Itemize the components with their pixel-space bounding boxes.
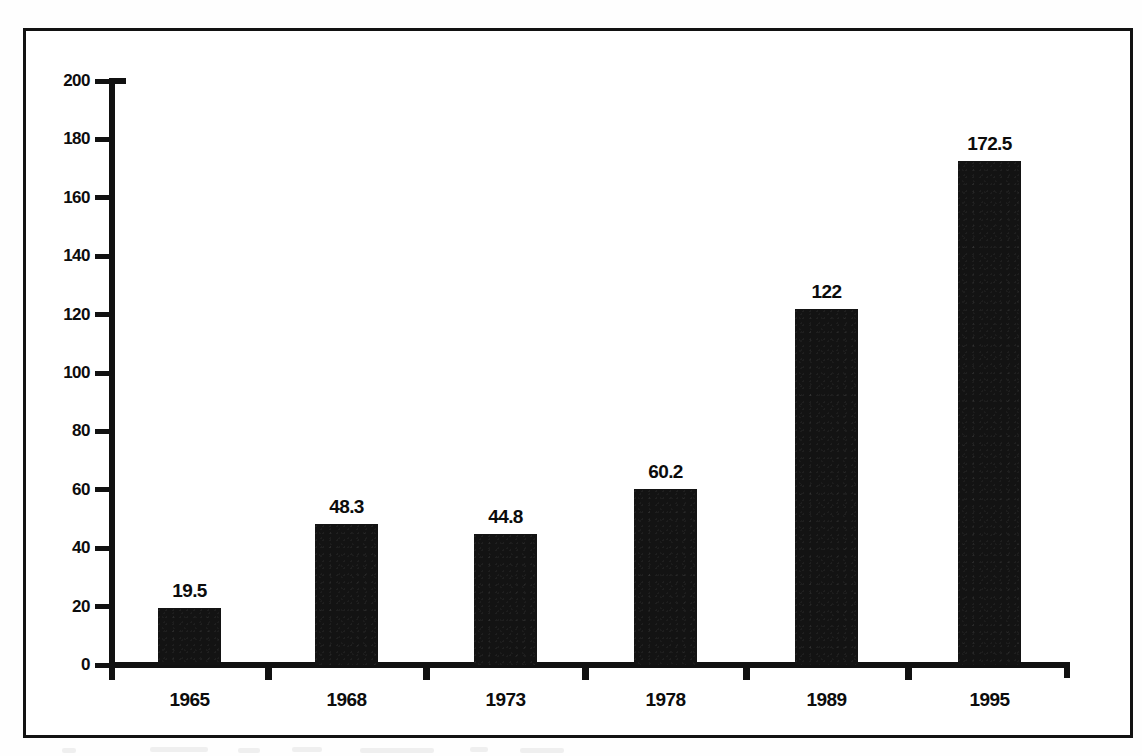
bar — [958, 161, 1021, 665]
bar — [634, 489, 697, 665]
y-axis-tick — [95, 429, 109, 434]
bar-value-label: 172.5 — [928, 134, 1051, 153]
y-axis-tick-label: 60 — [44, 481, 90, 498]
y-axis-tick — [95, 663, 109, 668]
bar — [158, 608, 221, 665]
y-axis-tick-label: 20 — [44, 598, 90, 615]
scanned-page: 020406080100120140160180200 19.548.344.8… — [0, 0, 1142, 756]
bar — [474, 534, 537, 665]
y-axis-tick-label: 200 — [44, 72, 90, 89]
x-axis-label: 1995 — [928, 690, 1051, 709]
y-axis-tick — [95, 79, 109, 84]
y-axis-tick — [95, 195, 109, 200]
bar-value-label: 44.8 — [444, 507, 567, 526]
x-axis-label: 1973 — [444, 690, 567, 709]
bar-value-label: 122 — [765, 282, 888, 301]
y-axis-tick-label: 40 — [44, 539, 90, 556]
y-axis-tick-label: 180 — [44, 130, 90, 147]
x-axis-label: 1965 — [128, 690, 251, 709]
bar — [315, 524, 378, 665]
y-axis-tick-label: 80 — [44, 422, 90, 439]
y-axis-line — [109, 78, 115, 668]
x-axis-label: 1989 — [765, 690, 888, 709]
y-axis-tick — [95, 546, 109, 551]
y-axis-tick — [95, 137, 109, 142]
y-axis-tick — [95, 254, 109, 259]
y-axis-top-cap — [109, 78, 126, 84]
x-axis-tick — [423, 666, 430, 680]
x-axis-label: 1968 — [285, 690, 408, 709]
bar-value-label: 19.5 — [128, 581, 251, 600]
bar-value-label: 60.2 — [604, 462, 727, 481]
bar — [795, 309, 858, 665]
y-axis-tick — [95, 487, 109, 492]
y-axis-tick-label: 120 — [44, 306, 90, 323]
origin-tick — [109, 650, 115, 680]
x-axis-tick — [905, 666, 912, 680]
x-axis-tick — [265, 666, 272, 680]
y-axis-tick — [95, 312, 109, 317]
bar-value-label: 48.3 — [285, 497, 408, 516]
x-axis-tick — [582, 666, 589, 680]
x-axis-tick — [743, 666, 750, 680]
x-axis-end-tick — [1064, 662, 1070, 678]
y-axis-tick-label: 0 — [44, 656, 90, 673]
x-axis-label: 1978 — [604, 690, 727, 709]
y-axis-tick-label: 160 — [44, 189, 90, 206]
y-axis-tick — [95, 604, 109, 609]
y-axis-tick — [95, 371, 109, 376]
bar-chart: 020406080100120140160180200 19.548.344.8… — [0, 0, 1142, 756]
y-axis-tick-label: 140 — [44, 247, 90, 264]
x-axis-line — [109, 662, 1070, 668]
y-axis-tick-label: 100 — [44, 364, 90, 381]
